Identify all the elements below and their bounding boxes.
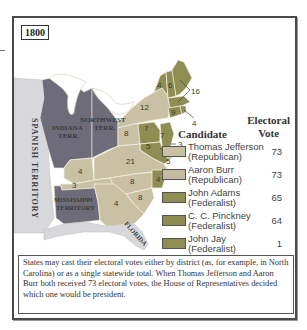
vote-ny: 12 — [140, 103, 149, 112]
northwest-label-line2: TERR. — [94, 124, 115, 132]
vote-nc-fed: 4 — [156, 175, 161, 184]
candidate-name: Aaron Burr(Republican) — [188, 165, 242, 185]
caption-note: States may cast their electoral votes ei… — [18, 255, 294, 314]
indiana-label-line1: INDIANA — [52, 124, 83, 132]
vote-md: 5 — [146, 142, 151, 151]
vote-nh: 6 — [168, 81, 173, 90]
federalist-swatch — [162, 192, 186, 203]
legend-header-candidate: Candidate — [178, 128, 227, 140]
legend-row: C. C. Pinckney(Federalist) 64 — [162, 211, 292, 234]
margin-tick — [0, 50, 5, 51]
candidate-votes: 1 — [277, 238, 282, 249]
candidate-name: John Jay(Federalist) — [188, 234, 236, 254]
candidate-votes: 64 — [271, 215, 282, 226]
legend-row: Thomas Jefferson(Republican) 73 — [162, 142, 292, 165]
vote-va: 21 — [126, 157, 135, 166]
candidate-votes: 65 — [271, 192, 282, 203]
candidate-name: Thomas Jefferson(Republican) — [188, 142, 264, 162]
pennsylvania-fed-region — [138, 122, 160, 144]
legend-header-vote-line1: Electoral — [247, 114, 290, 126]
vote-tn: 3 — [72, 181, 77, 190]
candidate-votes: 73 — [271, 169, 282, 180]
vote-sc: 8 — [138, 193, 143, 202]
vote-ma-callout: 16 — [191, 87, 200, 96]
legend-row: John Jay(Federalist) 1 — [162, 234, 292, 257]
vote-pa-left: 8 — [124, 129, 129, 138]
federalist-swatch — [162, 215, 186, 226]
republican-swatch — [162, 169, 186, 180]
vote-nc-rep: 8 — [130, 177, 135, 186]
legend-row: John Adams(Federalist) 65 — [162, 188, 292, 211]
legend-header: Candidate Electoral Vote — [162, 114, 292, 142]
legend-header-vote: Electoral Vote — [247, 114, 290, 140]
map-frame: SPANISH TERRITORY INDIANA TERR. NORTHWES… — [12, 16, 297, 320]
vote-nj: 7 — [144, 124, 149, 133]
vote-ga: 4 — [114, 199, 119, 208]
federalist-swatch — [162, 238, 186, 249]
legend-row: Aaron Burr(Republican) 73 — [162, 165, 292, 188]
republican-swatch — [162, 146, 186, 157]
spanish-territory-label: SPANISH TERRITORY — [30, 118, 39, 219]
northwest-label-line1: NORTHWEST — [80, 116, 126, 124]
candidate-name: John Adams(Federalist) — [188, 188, 240, 208]
vote-vt: 4 — [157, 81, 162, 90]
legend: Candidate Electoral Vote Thomas Jefferso… — [162, 114, 292, 257]
mississippi-label-line2: TERRITORY — [56, 204, 95, 211]
legend-header-vote-line2: Vote — [258, 127, 279, 139]
year-label: 1800 — [21, 25, 49, 40]
mississippi-label-line1: MISSISSIPPI — [54, 196, 93, 203]
candidate-name: C. C. Pinckney(Federalist) — [188, 211, 251, 231]
candidate-votes: 73 — [271, 146, 282, 157]
vote-ky: 4 — [78, 167, 83, 176]
indiana-label-line2: TERR. — [58, 132, 79, 140]
